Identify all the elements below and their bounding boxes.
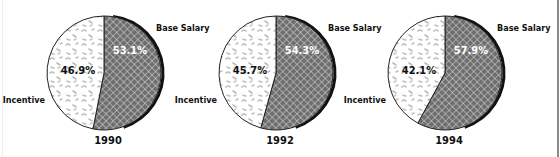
incentive-value: 45.7%: [233, 64, 267, 77]
pie-charts: 53.1%46.9%Base SalaryIncentive1990 54.3%…: [0, 0, 560, 157]
base-salary-value: 53.1%: [113, 44, 147, 57]
year-label: 1994: [435, 134, 463, 147]
legend-incentive: Incentive: [3, 95, 46, 105]
legend-base-salary: Base Salary: [156, 23, 210, 33]
legend-incentive: Incentive: [175, 95, 218, 105]
base-salary-value: 57.9%: [454, 44, 488, 57]
chart-frame: 53.1%46.9%Base SalaryIncentive1990 54.3%…: [0, 0, 560, 157]
legend-base-salary: Base Salary: [497, 23, 551, 33]
year-label: 1990: [94, 134, 122, 147]
pie-1992: 54.3%45.7%Base SalaryIncentive1992: [175, 16, 383, 147]
legend-incentive: Incentive: [344, 95, 387, 105]
pie-1994: 57.9%42.1%Base SalaryIncentive1994: [344, 16, 552, 147]
year-label: 1992: [266, 134, 294, 147]
pie-1990: 53.1%46.9%Base SalaryIncentive1990: [3, 16, 211, 147]
incentive-value: 42.1%: [402, 64, 436, 77]
legend-base-salary: Base Salary: [328, 23, 382, 33]
base-salary-value: 54.3%: [285, 44, 319, 57]
incentive-value: 46.9%: [61, 64, 95, 77]
